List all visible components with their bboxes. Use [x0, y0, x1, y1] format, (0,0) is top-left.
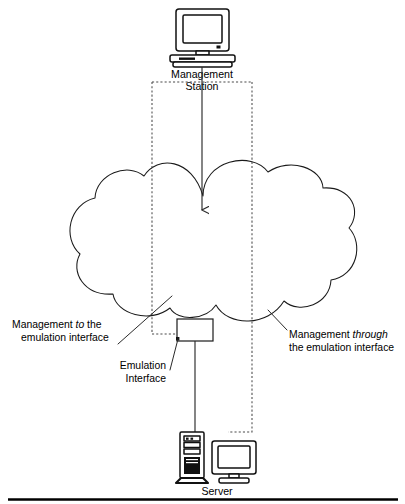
tower-server-icon — [176, 432, 208, 483]
network-cloud-icon — [70, 160, 357, 321]
emulation-interface-label-line1: Emulation — [120, 360, 166, 371]
annotation-right-line2: the emulation interface — [289, 342, 394, 353]
annotation-left-emphasis: to — [76, 319, 85, 330]
annotation-left-line2: emulation interface — [21, 332, 109, 343]
annotation-left-prefix: Management — [12, 319, 76, 330]
figure-canvas: Management Station Management to the emu… — [0, 0, 405, 504]
annotation-right-line1: Management through — [289, 329, 388, 340]
emulation-interface-label-line2: Interface — [126, 373, 167, 384]
leader-management-through — [268, 310, 287, 330]
annotation-right-emphasis: through — [353, 329, 388, 340]
server-label: Server — [201, 485, 233, 497]
leader-emulation-interface — [170, 339, 178, 370]
annotation-right-prefix: Management — [289, 329, 353, 340]
desktop-monitor-icon — [212, 441, 256, 483]
annotation-left-suffix: the — [84, 319, 102, 330]
emulation-interface-diagram: Management Station Management to the emu… — [0, 0, 405, 504]
interface-box-icon — [176, 319, 213, 341]
annotation-left-line1: Management to the — [12, 319, 102, 330]
desktop-computer-icon — [170, 9, 235, 67]
